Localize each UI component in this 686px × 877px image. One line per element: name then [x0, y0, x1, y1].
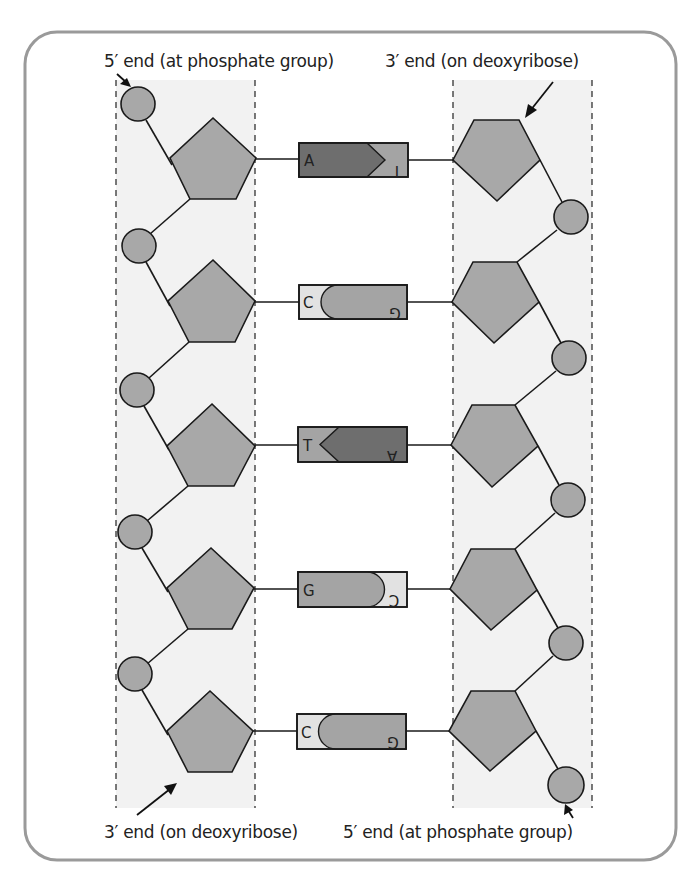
label-bottom-left-3-prime: 3′ end (on deoxyribose) — [104, 822, 298, 842]
base-label-left: T — [302, 437, 313, 455]
label-top-left-5-prime: 5′ end (at phosphate group) — [104, 51, 334, 71]
base-pair-g-c: G C — [298, 572, 407, 609]
phosphate-circle — [118, 657, 152, 691]
base-label-left: C — [301, 724, 311, 742]
label-top-right-3-prime: 3′ end (on deoxyribose) — [385, 51, 579, 71]
phosphate-circle — [120, 373, 154, 407]
base-label-right: A — [386, 447, 397, 465]
base-pair-c-g: C G — [299, 285, 407, 322]
base-label-right: T — [392, 162, 403, 180]
phosphate-circle — [118, 515, 152, 549]
base-label-right: G — [387, 733, 399, 751]
base-label-right: G — [389, 304, 401, 322]
phosphate-circle — [552, 341, 586, 375]
base-label-left: G — [303, 582, 315, 600]
phosphate-circle — [548, 767, 584, 803]
phosphate-circle — [554, 200, 588, 234]
phosphate-circle — [551, 483, 585, 517]
phosphate-circle — [122, 229, 156, 263]
base-pair-t-a: T A — [298, 427, 407, 465]
dna-diagram: A T C G T A G C C G 5′ end (at phosphate… — [0, 0, 686, 877]
base-pair-a-t: A T — [299, 143, 408, 180]
base-label-left: A — [304, 152, 315, 170]
phosphate-circle — [549, 626, 583, 660]
base-label-right: C — [389, 591, 399, 609]
base-label-left: C — [303, 294, 313, 312]
base-pair-c-g: C G — [297, 714, 406, 751]
phosphate-circle — [121, 87, 155, 121]
label-bottom-right-5-prime: 5′ end (at phosphate group) — [343, 822, 573, 842]
